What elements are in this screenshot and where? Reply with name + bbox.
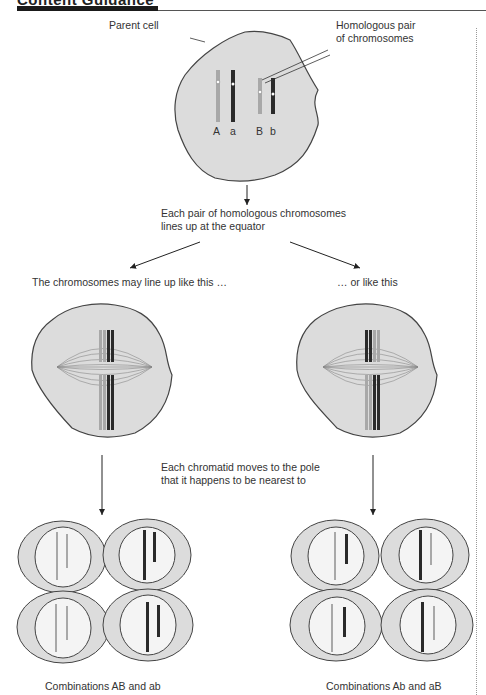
homologous-label-2: of chromosomes [336,32,414,45]
meiosis-diagram [0,0,486,695]
allele-A: A [213,125,220,138]
metaphase-cell-left [32,304,172,437]
chromatid-label-1: Each chromatid moves to the pole [161,461,320,474]
chromatid-label-2: that it happens to be nearest to [161,474,306,487]
parent-cell [175,31,330,181]
allele-a: a [230,125,236,138]
parent-cell-label: Parent cell [109,19,159,32]
homologous-label-1: Homologous pair [336,19,415,32]
allele-B: B [256,125,263,138]
option-left-label: The chromosomes may line up like this … [32,276,227,289]
option-right-label: … or like this [337,276,398,289]
allele-b: b [270,125,276,138]
result-left-label: Combinations AB and ab [45,680,161,693]
daughter-cells-right [290,519,473,661]
daughter-cells-left [17,519,193,663]
metaphase-cell-right [297,304,437,437]
result-right-label: Combinations Ab and aB [326,680,442,693]
lines-up-label-1: Each pair of homologous chromosomes [161,207,346,220]
lines-up-label-2: lines up at the equator [161,220,265,233]
